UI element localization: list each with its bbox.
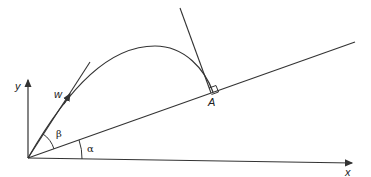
y-axis-label: y xyxy=(14,80,22,92)
alpha-arc xyxy=(79,140,82,159)
alpha-label: α xyxy=(87,143,94,154)
x-axis xyxy=(28,158,352,163)
point-a-label: A xyxy=(207,96,215,108)
projectile-diagram: y x w A β α xyxy=(0,0,371,177)
beta-arc xyxy=(43,134,54,149)
normal-line xyxy=(180,8,211,93)
beta-label: β xyxy=(56,128,62,139)
x-axis-label: x xyxy=(344,166,351,177)
velocity-label: w xyxy=(54,88,63,100)
